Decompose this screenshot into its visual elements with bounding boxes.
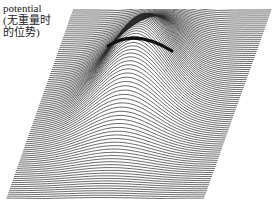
surface-line [12,178,210,182]
potential-label: potential (无重量时 的位势) [3,2,51,38]
surface-line [20,146,218,161]
surface-line [11,181,209,185]
surface-line [8,191,206,193]
surface-line [73,4,272,9]
surface-line [7,193,205,195]
surface-line [37,49,236,112]
label-line-1: potential [3,2,51,14]
label-line-3: 的位势) [3,26,51,38]
surface-line [7,195,205,197]
surface-line [6,198,204,200]
label-line-2: (无重量时 [3,14,51,26]
